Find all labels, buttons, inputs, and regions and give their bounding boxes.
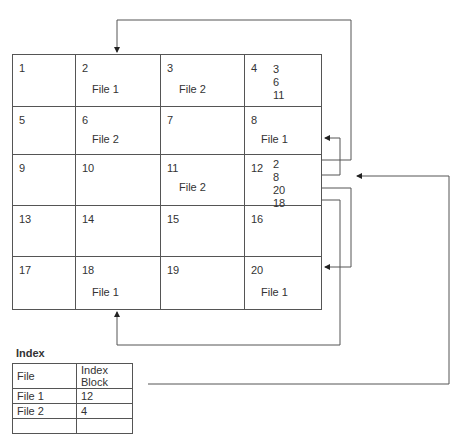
table-row: File 2 4 <box>13 404 133 419</box>
index-block-value <box>77 419 133 434</box>
index-title: Index <box>16 347 45 359</box>
block-file-label: File 2 <box>92 133 119 145</box>
disk-block: 17 <box>13 257 76 309</box>
disk-block: 18 File 1 <box>76 257 161 309</box>
index-table: File Index Block File 1 12 File 2 4 <box>12 363 133 434</box>
block-number: 12 <box>251 162 263 174</box>
table-row <box>13 419 133 434</box>
block-number: 7 <box>167 114 173 126</box>
block-file-label: File 1 <box>92 83 119 95</box>
disk-block: 14 <box>76 206 161 257</box>
block-number: 9 <box>19 162 25 174</box>
block-number: 1 <box>19 62 25 74</box>
block-number: 5 <box>19 114 25 126</box>
block-number: 3 <box>167 62 173 74</box>
block-number: 15 <box>167 213 179 225</box>
disk-block: 3 File 2 <box>161 55 245 107</box>
disk-block: 15 <box>161 206 245 257</box>
block-file-label: File 1 <box>261 133 288 145</box>
disk-block: 10 <box>76 155 161 206</box>
pointer-value: 8 <box>273 171 285 184</box>
block-file-label: File 2 <box>179 181 206 193</box>
block-number: 20 <box>251 264 263 276</box>
table-row: File 1 12 <box>13 389 133 404</box>
file-name <box>13 419 77 434</box>
disk-block: 4 3 6 11 <box>245 55 321 107</box>
block-number: 16 <box>251 213 263 225</box>
block-file-label: File 1 <box>261 286 288 298</box>
disk-block: 13 <box>13 206 76 257</box>
block-number: 6 <box>82 114 88 126</box>
block-number: 2 <box>82 62 88 74</box>
block-file-label: File 1 <box>92 286 119 298</box>
file-name: File 1 <box>13 389 77 404</box>
file-name: File 2 <box>13 404 77 419</box>
disk-block: 19 <box>161 257 245 309</box>
pointer-value: 3 <box>273 63 284 76</box>
disk-block: 2 File 1 <box>76 55 161 107</box>
block-number: 18 <box>82 264 94 276</box>
pointer-value: 6 <box>273 76 284 89</box>
disk-block: 5 <box>13 107 76 155</box>
block-number: 4 <box>251 62 257 74</box>
disk-block: 8 File 1 <box>245 107 321 155</box>
disk-block: 16 <box>245 206 321 257</box>
block-number: 10 <box>82 162 94 174</box>
block-number: 8 <box>251 114 257 126</box>
block-number: 17 <box>19 264 31 276</box>
disk-block: 20 File 1 <box>245 257 321 309</box>
disk-block: 7 <box>161 107 245 155</box>
block-number: 11 <box>167 162 178 174</box>
index-block-value: 12 <box>77 389 133 404</box>
disk-block: 1 <box>13 55 76 107</box>
block-number: 19 <box>167 264 179 276</box>
block-number: 13 <box>19 213 31 225</box>
header-index-block: Index Block <box>77 364 133 389</box>
index-block-pointers: 3 6 11 <box>273 63 284 102</box>
block-file-label: File 2 <box>179 83 206 95</box>
index-header-row: File Index Block <box>13 364 133 389</box>
disk-block: 9 <box>13 155 76 206</box>
pointer-value: 11 <box>273 89 284 102</box>
disk-block: 6 File 2 <box>76 107 161 155</box>
index-block-value: 4 <box>77 404 133 419</box>
disk-block: 11 File 2 <box>161 155 245 206</box>
block-number: 14 <box>82 213 94 225</box>
disk-block-grid: 1 2 File 1 3 File 2 4 3 6 11 5 6 File 2 … <box>12 54 322 310</box>
index-block-pointers: 2 8 20 18 <box>273 158 285 210</box>
disk-block: 12 2 8 20 18 <box>245 155 321 206</box>
header-file: File <box>13 364 77 389</box>
pointer-value: 2 <box>273 158 285 171</box>
pointer-value: 20 <box>273 184 285 197</box>
